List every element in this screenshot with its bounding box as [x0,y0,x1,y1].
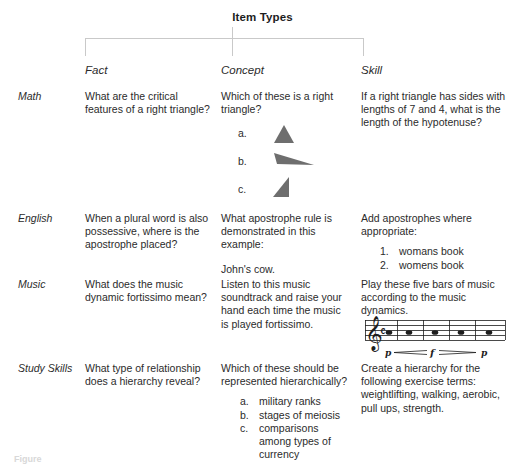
obtuse-flat-triangle-icon [271,148,315,168]
cell-studyskills-fact: What type of relationship does a hierarc… [85,362,213,388]
column-header-skill: Skill [361,64,382,76]
music-staff-notation: 𝄞 𝄴 p f p [361,316,509,362]
list-text: military ranks [259,395,321,407]
list-marker: 1. [380,245,389,258]
list-item: 2. womens book [378,259,513,272]
cell-example: John's cow. [221,263,351,276]
svg-text:f: f [429,347,436,358]
cell-math-fact: What are the critical features of a righ… [85,90,213,116]
numbered-list: 1. womans book 2. womens book [378,245,513,271]
cell-text: What type of relationship does a hierarc… [85,362,213,388]
list-item: 1. womans book [378,245,513,258]
figure-canvas: Item Types Fact Concept Skill Math What … [0,0,525,465]
cell-text: When a plural word is also possessive, w… [85,212,213,252]
row-label-math: Math [18,90,41,102]
svg-text:p: p [385,348,392,358]
row-label-study-skills: Study Skills [18,362,72,374]
cell-math-skill: If a right triangle has sides with lengt… [361,90,513,130]
list-marker: c. [240,422,248,435]
cell-music-concept: Listen to this music soundtrack and rais… [221,278,351,331]
answer-options: a. b. c. [221,124,351,202]
cell-text: If a right triangle has sides with lengt… [361,90,513,130]
cell-english-concept: What apostrophe rule is demonstrated in … [221,212,351,276]
cell-text: What apostrophe rule is demonstrated in … [221,212,351,252]
row-label-english: English [18,212,52,224]
list-marker: a. [240,395,249,408]
list-text: womens book [399,259,464,271]
list-text: stages of meiosis [259,409,340,421]
cell-english-skill: Add apostrophes where appropriate: 1. wo… [361,212,513,272]
cell-text: Which of these is a right triangle? [221,90,351,116]
cell-text: What are the critical features of a righ… [85,90,213,116]
cell-text: Play these five bars of music according … [361,278,513,318]
list-marker: 2. [380,259,389,272]
cell-music-skill: Play these five bars of music according … [361,278,513,318]
cell-text: Which of these should be represented hie… [221,362,351,388]
cell-text: Add apostrophes where appropriate: [361,212,513,238]
column-header-concept: Concept [221,64,264,76]
cell-studyskills-concept: Which of these should be represented hie… [221,362,351,461]
lettered-list: a. military ranks b. stages of meiosis c… [238,395,351,461]
option-marker-b: b. [238,155,247,168]
acute-isosceles-triangle-icon [271,124,297,144]
list-item: c. comparisons among types of currency [238,422,351,462]
figure-caption: Figure [14,454,42,464]
list-marker: b. [240,409,249,422]
cell-english-fact: When a plural word is also possessive, w… [85,212,213,252]
option-marker-a: a. [238,127,247,140]
list-item: a. military ranks [238,395,351,408]
svg-text:p: p [481,348,488,358]
page-title: Item Types [0,11,525,23]
cell-studyskills-skill: Create a hierarchy for the following exe… [361,362,513,415]
cell-text: Create a hierarchy for the following exe… [361,362,513,415]
svg-text:𝄴: 𝄴 [380,324,386,339]
right-triangle-icon [271,176,293,198]
list-text: comparisons among types of currency [259,422,331,460]
row-label-music: Music [18,278,45,290]
cell-math-concept: Which of these is a right triangle? a. b… [221,90,351,202]
cell-music-fact: What does the music dynamic fortissimo m… [85,278,213,304]
list-item: b. stages of meiosis [238,409,351,422]
list-text: womans book [399,245,464,257]
column-header-fact: Fact [85,64,107,76]
option-marker-c: c. [238,183,246,196]
cell-text: Listen to this music soundtrack and rais… [221,278,351,331]
cell-text: What does the music dynamic fortissimo m… [85,278,213,304]
